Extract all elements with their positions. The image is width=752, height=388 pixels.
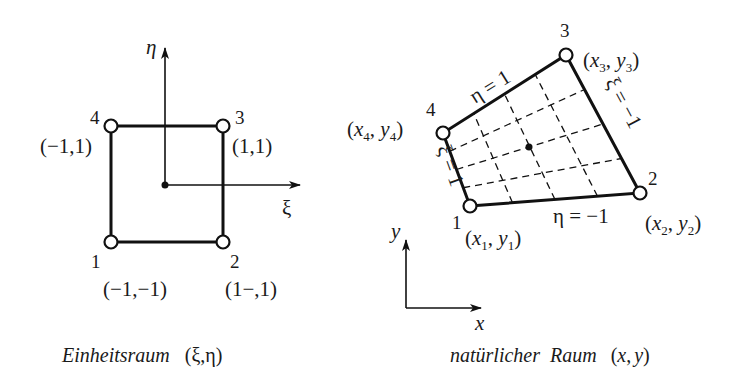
node-2	[634, 187, 647, 200]
mapped-element	[443, 55, 640, 206]
natural-space-caption: natürlicher Raum(x,y)	[450, 344, 650, 367]
node-3	[217, 120, 230, 133]
node-1-coords: (x1, y1)	[465, 226, 521, 253]
xi-axis-label: ξ	[282, 196, 291, 220]
node-4-number: 4	[426, 99, 436, 120]
node-1	[464, 200, 477, 213]
node-2-coords: (x2, y2)	[645, 211, 701, 238]
center-point	[162, 182, 169, 189]
node-1-coords: (−1,−1)	[103, 277, 167, 301]
node-2-number: 2	[648, 168, 658, 189]
node-2	[217, 236, 230, 249]
node-2-coords: (1−,1)	[225, 277, 277, 301]
node-4-coords: (−1,1)	[40, 134, 92, 158]
x-axis-label: x	[474, 311, 485, 335]
node-1	[105, 236, 118, 249]
unit-space-caption: Einheitsraum (ξ,η)	[61, 344, 222, 367]
edge-label-right: ξ = −1	[601, 73, 648, 132]
edge-label-left: ξ = 1	[432, 142, 469, 190]
node-3-number: 3	[560, 20, 570, 41]
eta-axis-label: η	[146, 35, 156, 59]
node-2-number: 2	[230, 251, 240, 272]
node-4	[105, 120, 118, 133]
node-3-number: 3	[235, 107, 245, 128]
node-1-number: 1	[452, 212, 462, 233]
node-4-coords: (x4, y4)	[347, 117, 403, 144]
node-1-number: 1	[91, 251, 101, 272]
node-3-coords: (x3, y3)	[583, 48, 639, 75]
node-4-number: 4	[90, 107, 100, 128]
node-3	[560, 49, 573, 62]
unit-space-diagram: η ξ 4 3 1 2 (−1,1) (1,1) (−1,−1) (1−,1) …	[40, 35, 300, 367]
y-axis-label: y	[389, 219, 401, 243]
node-3-coords: (1,1)	[232, 134, 272, 158]
center-point	[526, 144, 533, 151]
natural-space-diagram: 1 2 3 4 (x1, y1) (x2, y2) (x3, y3) (x4, …	[347, 20, 701, 367]
edge-label-bottom: η = −1	[553, 204, 609, 228]
node-4	[437, 127, 450, 140]
